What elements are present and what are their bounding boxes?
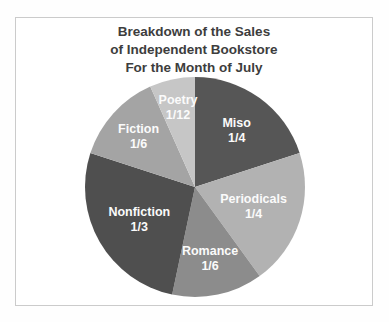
pie-chart: Miso1/4Periodicals1/4Romance1/6Nonfictio… [0,0,389,322]
page-background: Breakdown of the Sales of Independent Bo… [0,0,389,322]
